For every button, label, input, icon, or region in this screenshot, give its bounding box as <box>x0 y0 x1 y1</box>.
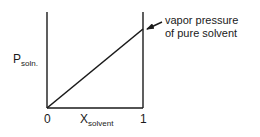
annotation-arrow <box>147 22 162 29</box>
x-tick-1: 1 <box>140 113 147 126</box>
x-tick-0: 0 <box>44 113 51 126</box>
y-axis-label: Psoln. <box>13 53 38 67</box>
x-axis-label-subscript: solvent <box>88 119 113 128</box>
annotation-line-2: of pure solvent <box>165 27 238 40</box>
annotation-label: vapor pressure of pure solvent <box>165 14 238 40</box>
y-axis-label-subscript: soln. <box>21 59 38 68</box>
x-axis-label-main: X <box>80 112 88 126</box>
vapor-pressure-line <box>47 29 143 108</box>
annotation-line-1: vapor pressure <box>165 14 238 27</box>
x-axis-label: Xsolvent <box>80 113 113 127</box>
y-axis-label-main: P <box>13 52 21 66</box>
